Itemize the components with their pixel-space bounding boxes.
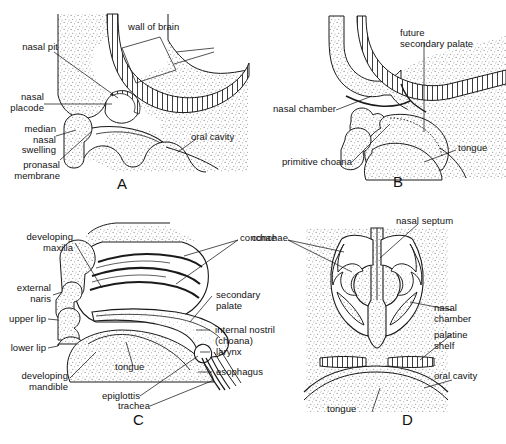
label-c-external-naris: external naris — [0, 283, 51, 304]
label-c-esophagus: esophagus — [216, 367, 272, 378]
label-c-lower-lip: lower lip — [0, 343, 46, 354]
label-c-larynx: larynx — [216, 347, 256, 358]
panel-letter-b: B — [393, 173, 403, 190]
panel-letter-d: D — [402, 411, 413, 428]
label-a-median-nasal-swelling: median nasal swelling — [0, 124, 56, 156]
label-d-nasal-septum: nasal septum — [396, 216, 472, 227]
label-d-oral-cavity: oral cavity — [434, 371, 494, 382]
label-d-nasal-chamber: nasal chamber — [434, 303, 490, 324]
panel-letter-a: A — [117, 175, 127, 192]
label-a-oral-cavity: oral cavity — [191, 132, 253, 143]
label-c-tongue: tongue — [115, 362, 155, 373]
label-b-future-secondary-palate: future secondary palate — [400, 28, 506, 49]
panel-letter-c: C — [133, 411, 144, 428]
label-c-secondary-palate: secondary palate — [216, 290, 274, 311]
label-a-nasal-placode: nasal placode — [0, 92, 44, 113]
label-a-pronasal-membrane: pronasal membrane — [0, 160, 60, 181]
label-d-palatine-shelf: palatine shelf — [434, 330, 484, 351]
label-d-conchae: conchae — [238, 233, 288, 244]
label-b-primitive-choana: primitive choana — [254, 157, 352, 168]
label-d-tongue: tongue — [327, 404, 371, 415]
label-c-upper-lip: upper lip — [0, 314, 46, 325]
label-c-developing-mandible: developing mandible — [0, 371, 68, 392]
label-c-developing-maxilla: developing maxilla — [0, 232, 73, 253]
panel-d-drawing — [288, 224, 452, 412]
label-b-nasal-chamber: nasal chamber — [254, 104, 336, 115]
figure-root: nasal pit wall of brain nasal placode me… — [0, 0, 506, 444]
label-a-nasal-pit: nasal pit — [2, 42, 58, 53]
label-b-tongue: tongue — [458, 143, 506, 154]
panel-c-drawing — [48, 223, 241, 406]
label-a-wall-of-brain: wall of brain — [128, 22, 218, 33]
label-c-internal-nostril: internal nostril (choana) — [215, 325, 293, 346]
panel-a-drawing — [44, 14, 249, 172]
label-c-trachea: trachea — [106, 401, 150, 412]
